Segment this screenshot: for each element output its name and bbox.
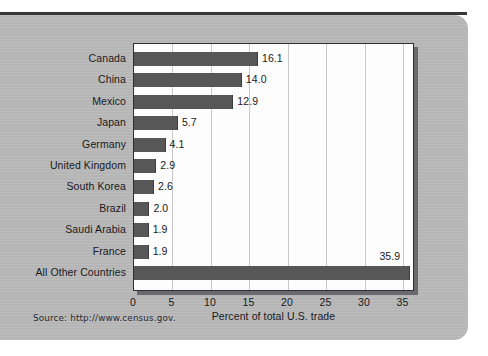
bar-value-label: 2.0 bbox=[153, 201, 168, 215]
bar bbox=[134, 95, 233, 109]
bar-value-label: 16.1 bbox=[262, 51, 283, 65]
source-note: Source: http://www.census.gov. bbox=[33, 313, 176, 323]
category-label: Brazil bbox=[99, 201, 126, 215]
bar-value-label: 12.9 bbox=[237, 94, 258, 108]
category-label: Mexico bbox=[92, 94, 126, 108]
bar bbox=[134, 180, 154, 194]
category-label: South Korea bbox=[67, 179, 126, 193]
category-label: Japan bbox=[97, 115, 126, 129]
bar-value-label: 2.9 bbox=[160, 158, 175, 172]
x-tick-label: 20 bbox=[281, 296, 293, 308]
category-label: China bbox=[98, 72, 126, 86]
bars-layer bbox=[134, 44, 413, 290]
bar bbox=[134, 116, 178, 130]
x-tick-label: 5 bbox=[169, 296, 175, 308]
bar bbox=[134, 202, 149, 216]
bar bbox=[134, 223, 149, 237]
x-tick-label: 0 bbox=[130, 296, 136, 308]
bar-value-label: 4.1 bbox=[170, 137, 185, 151]
x-tick-label: 25 bbox=[320, 296, 332, 308]
bar-value-label: 1.9 bbox=[153, 222, 168, 236]
category-label: All Other Countries bbox=[35, 265, 126, 279]
x-tick-label: 15 bbox=[243, 296, 255, 308]
category-label: United Kingdom bbox=[50, 158, 126, 172]
x-tick-label: 35 bbox=[396, 296, 408, 308]
bar bbox=[134, 245, 149, 259]
x-tick-label: 10 bbox=[204, 296, 216, 308]
bar-value-label: 1.9 bbox=[153, 244, 168, 258]
bar-value-label: 2.6 bbox=[158, 179, 173, 193]
x-tick-label: 30 bbox=[358, 296, 370, 308]
bar-value-label: 5.7 bbox=[182, 115, 197, 129]
category-label: Germany bbox=[82, 137, 126, 151]
bar-value-label: 14.0 bbox=[246, 72, 267, 86]
bar bbox=[134, 52, 258, 66]
bar-value-label: 35.9 bbox=[379, 249, 400, 263]
bar-chart: CanadaChinaMexicoJapanGermanyUnited King… bbox=[0, 15, 468, 340]
bar bbox=[134, 159, 156, 173]
category-label: France bbox=[93, 244, 126, 258]
bar bbox=[134, 138, 166, 152]
category-label: Saudi Arabia bbox=[65, 222, 126, 236]
bar bbox=[134, 73, 242, 87]
bar bbox=[134, 266, 410, 280]
category-label: Canada bbox=[89, 51, 126, 65]
